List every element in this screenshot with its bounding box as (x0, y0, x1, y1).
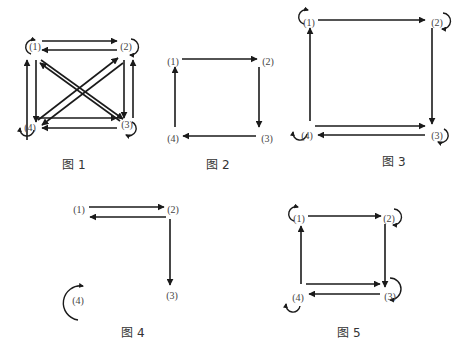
figure-caption: 图 2 (206, 158, 229, 172)
node-label-2: (2) (120, 41, 132, 53)
figure-caption: 图 1 (62, 158, 85, 172)
figure-caption: 图 4 (121, 326, 144, 340)
node-label-4: (4) (72, 295, 84, 307)
node-label-4: (4) (167, 133, 179, 145)
node-label-3: (3) (384, 291, 396, 303)
figure-caption: 图 3 (382, 155, 405, 169)
node-label-3: (3) (261, 133, 273, 145)
node-label-2: (2) (262, 56, 274, 68)
directed-edge (41, 60, 123, 119)
figure-2: (1)(2)(3)(4)图 2 (167, 56, 274, 172)
figure-1: (1)(2)(3)(4)图 1 (20, 39, 139, 172)
node-label-3: (3) (121, 119, 133, 131)
node-label-2: (2) (383, 213, 395, 225)
node-label-1: (1) (73, 204, 85, 216)
node-label-4: (4) (24, 122, 36, 134)
self-loop-arrow-icon (286, 304, 300, 312)
node-label-1: (1) (303, 17, 315, 29)
figure-3: (1)(2)(3)(4)图 3 (293, 10, 451, 169)
node-label-4: (4) (292, 292, 304, 304)
node-label-1: (1) (29, 41, 41, 53)
self-loop-arrow-icon (442, 13, 451, 29)
node-label-2: (2) (167, 204, 179, 216)
diagram-canvas: (1)(2)(3)(4)图 1 (1)(2)(3)(4)图 2 (1)(2)(3… (0, 0, 464, 353)
node-label-3: (3) (166, 290, 178, 302)
node-label-2: (2) (431, 17, 443, 29)
node-label-1: (1) (167, 56, 179, 68)
node-label-1: (1) (293, 213, 305, 225)
figure-caption: 图 5 (337, 326, 360, 340)
figure-4: (1)(2)(3)(4)图 4 (63, 204, 179, 340)
node-label-3: (3) (431, 130, 443, 142)
directed-edge (40, 63, 120, 121)
node-label-4: (4) (301, 130, 313, 142)
figure-5: (1)(2)(3)(4)图 5 (286, 207, 402, 340)
